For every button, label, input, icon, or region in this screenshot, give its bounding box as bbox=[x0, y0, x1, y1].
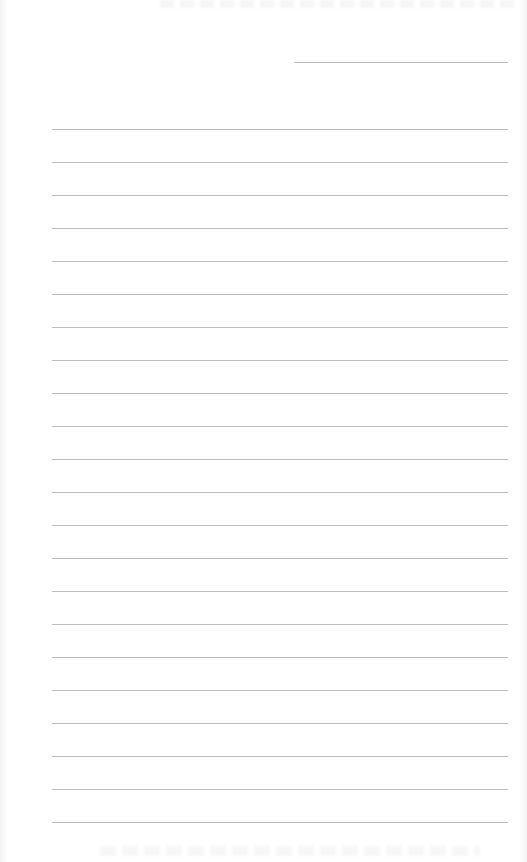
ruled-line bbox=[52, 756, 508, 757]
ruled-line bbox=[52, 129, 508, 130]
ruled-line bbox=[52, 426, 508, 427]
ruled-line bbox=[52, 525, 508, 526]
ruled-line bbox=[52, 327, 508, 328]
lined-paper-page bbox=[0, 0, 527, 862]
ruled-line bbox=[52, 624, 508, 625]
ruled-line bbox=[52, 228, 508, 229]
ruled-line bbox=[52, 591, 508, 592]
ruled-line bbox=[52, 195, 508, 196]
ruled-line bbox=[52, 558, 508, 559]
bleed-through-text-bottom bbox=[100, 846, 480, 856]
bleed-through-text-top bbox=[160, 0, 520, 8]
ruled-line bbox=[52, 822, 508, 823]
ruled-line bbox=[52, 294, 508, 295]
ruled-line bbox=[52, 360, 508, 361]
ruled-line bbox=[52, 657, 508, 658]
ruled-line bbox=[52, 162, 508, 163]
ruled-line bbox=[52, 261, 508, 262]
ruled-line bbox=[52, 789, 508, 790]
ruled-line bbox=[52, 492, 508, 493]
header-name-line bbox=[294, 62, 508, 63]
ruled-line bbox=[52, 459, 508, 460]
ruled-line bbox=[52, 723, 508, 724]
ruled-line bbox=[52, 690, 508, 691]
ruled-line bbox=[52, 393, 508, 394]
